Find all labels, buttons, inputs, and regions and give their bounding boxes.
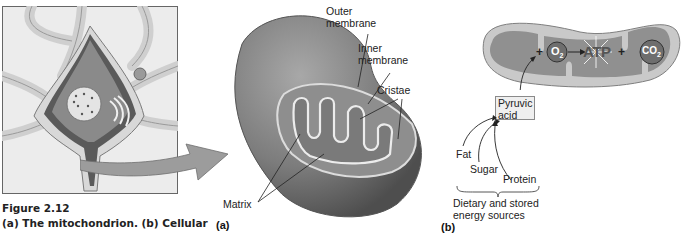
panel-b-tag: (b) <box>441 221 455 233</box>
energy-sources-line1: Dietary and stored <box>453 197 539 209</box>
zoom-arrow <box>80 140 232 190</box>
o2-symbol: O <box>551 45 560 57</box>
co2-subscript: 2 <box>657 51 661 58</box>
panel-a-tag: (a) <box>216 219 229 231</box>
figure-number: Figure 2.12 <box>2 202 70 214</box>
inner-membrane-line1: Inner <box>358 42 408 54</box>
o2-molecule: O2 <box>551 45 563 59</box>
energy-sources-line2: energy sources <box>453 209 539 221</box>
inner-membrane-label: Inner membrane <box>358 42 408 66</box>
atp-label: ATP <box>583 43 610 60</box>
outer-membrane-label: Outer membrane <box>326 5 376 29</box>
source-fat: Fat <box>456 148 471 160</box>
cristae-label: Cristae <box>377 84 410 96</box>
plus-sign-2: + <box>618 45 625 59</box>
outer-membrane-line2: membrane <box>326 17 376 29</box>
pyruvic-line1: Pyruvic <box>498 98 532 110</box>
source-sugar: Sugar <box>470 163 498 175</box>
plus-sign-1: + <box>536 45 543 59</box>
energy-sources-label: Dietary and stored energy sources <box>453 197 539 221</box>
inner-membrane-line2: membrane <box>358 54 408 66</box>
co2-symbol: CO <box>642 45 657 56</box>
o2-subscript: 2 <box>560 52 564 59</box>
outer-membrane-line1: Outer <box>326 5 376 17</box>
figure-caption: (a) The mitochondrion. (b) Cellular <box>2 217 208 229</box>
matrix-label: Matrix <box>223 198 252 210</box>
mitochondrion-illustration <box>222 4 432 226</box>
co2-molecule: CO2 <box>642 45 661 58</box>
curly-brace <box>455 184 541 198</box>
